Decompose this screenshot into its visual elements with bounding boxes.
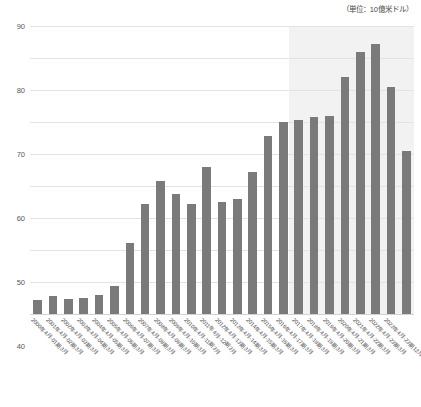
y-axis-tick-label: 50 bbox=[17, 278, 25, 287]
y-axis-tick-label: 60 bbox=[17, 214, 25, 223]
bar bbox=[172, 194, 181, 314]
bar bbox=[187, 204, 196, 314]
bar bbox=[110, 286, 119, 314]
bar-series bbox=[30, 26, 414, 314]
bar bbox=[264, 136, 273, 314]
bar bbox=[126, 243, 135, 314]
x-axis-labels: 2000年4月-01期3月2001年4月-02期3月2002年4月-03期3月2… bbox=[30, 316, 414, 406]
bar bbox=[95, 295, 104, 314]
bar bbox=[371, 44, 380, 314]
bar bbox=[294, 120, 303, 314]
bar bbox=[33, 300, 42, 314]
bar bbox=[387, 87, 396, 314]
bar bbox=[64, 299, 73, 314]
bar bbox=[402, 151, 411, 314]
bar bbox=[279, 122, 288, 314]
bar bbox=[49, 296, 58, 314]
bar bbox=[218, 202, 227, 314]
bar bbox=[202, 167, 211, 314]
bar-chart: （単位：10億米ドル） 0102030405060708090 2000年4月-… bbox=[0, 0, 421, 407]
bar bbox=[325, 116, 334, 314]
bar bbox=[141, 204, 150, 314]
bar bbox=[233, 199, 242, 314]
y-axis-tick-label: 70 bbox=[17, 150, 25, 159]
y-axis-tick-label: 90 bbox=[17, 22, 25, 31]
unit-note: （単位：10億米ドル） bbox=[342, 3, 413, 14]
bar bbox=[156, 181, 165, 314]
bar bbox=[356, 52, 365, 314]
bar bbox=[341, 77, 350, 314]
plot-area: 0102030405060708090 bbox=[30, 26, 414, 314]
bar bbox=[248, 172, 257, 314]
y-axis-tick-label: 80 bbox=[17, 86, 25, 95]
y-axis-tick-label: 40 bbox=[17, 342, 25, 351]
bar bbox=[79, 298, 88, 314]
bar bbox=[310, 117, 319, 314]
